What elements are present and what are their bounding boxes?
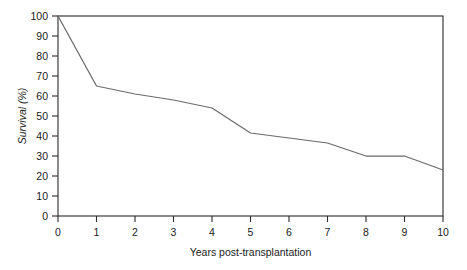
- chart-canvas: 0 10 20 30 40 50 60 70 80 90 100: [0, 0, 467, 270]
- y-axis-tick-labels: 0 10 20 30 40 50 60 70 80 90 100: [30, 10, 48, 222]
- x-tick-label-4: 4: [209, 226, 215, 238]
- x-tick-label-0: 0: [55, 226, 61, 238]
- y-tick-label-50: 50: [36, 110, 48, 122]
- survival-data-line: [58, 16, 443, 170]
- survival-curve-figure: 0 10 20 30 40 50 60 70 80 90 100: [0, 0, 467, 270]
- x-axis-ticks: [58, 216, 443, 222]
- x-tick-label-3: 3: [171, 226, 177, 238]
- y-tick-label-0: 0: [42, 210, 48, 222]
- x-tick-label-5: 5: [248, 226, 254, 238]
- y-tick-label-60: 60: [36, 90, 48, 102]
- plot-frame: [58, 16, 443, 216]
- y-tick-label-90: 90: [36, 30, 48, 42]
- x-tick-label-2: 2: [132, 226, 138, 238]
- x-tick-label-7: 7: [325, 226, 331, 238]
- x-tick-label-6: 6: [286, 226, 292, 238]
- x-tick-label-9: 9: [402, 226, 408, 238]
- y-tick-label-70: 70: [36, 70, 48, 82]
- x-tick-label-8: 8: [363, 226, 369, 238]
- y-axis-title: Survival (%): [16, 88, 28, 145]
- x-axis-tick-labels: 0 1 2 3 4 5 6 7 8 9 10: [55, 226, 449, 238]
- y-tick-label-80: 80: [36, 50, 48, 62]
- y-tick-label-10: 10: [36, 190, 48, 202]
- x-axis-title: Years post-transplantation: [190, 246, 312, 258]
- y-tick-label-100: 100: [30, 10, 48, 22]
- x-tick-label-1: 1: [94, 226, 100, 238]
- y-tick-label-20: 20: [36, 170, 48, 182]
- y-tick-label-30: 30: [36, 150, 48, 162]
- y-tick-label-40: 40: [36, 130, 48, 142]
- x-tick-label-10: 10: [437, 226, 449, 238]
- y-axis-ticks: [52, 16, 58, 216]
